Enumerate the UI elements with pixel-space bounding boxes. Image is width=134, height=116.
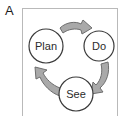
arrow-do-to-see	[91, 62, 109, 94]
node-see-label: See	[66, 88, 86, 100]
arrow-plan-to-do	[60, 20, 92, 34]
arrow-see-to-plan	[35, 67, 60, 96]
figure-panel: A Plan Do See	[0, 0, 134, 116]
pdsa-cycle-diagram: Plan Do See	[22, 8, 118, 116]
panel-label: A	[5, 4, 14, 18]
node-do: Do	[84, 31, 114, 61]
node-plan: Plan	[29, 29, 63, 63]
node-plan-label: Plan	[35, 40, 57, 52]
node-do-label: Do	[92, 40, 106, 52]
node-see: See	[59, 77, 93, 111]
